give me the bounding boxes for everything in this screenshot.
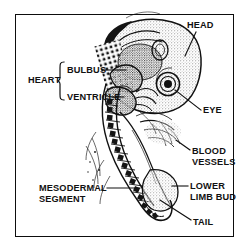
label-mesodermal-segment: MESODERMAL SEGMENT: [39, 183, 107, 204]
label-heart: HEART: [28, 75, 60, 86]
figure-container: HEAD EYE BLOOD VESSELS LOWER LIMB BUD TA…: [0, 0, 250, 252]
label-eye: EYE: [203, 105, 222, 116]
label-head: HEAD: [187, 20, 214, 31]
label-lower-limb-bud: LOWER LIMB BUD: [190, 181, 236, 202]
label-blood-vessels: BLOOD VESSELS: [192, 146, 235, 167]
label-tail: TAIL: [193, 217, 213, 228]
label-ventricle: VENTRICLE: [67, 92, 120, 103]
label-bulbus: BULBUS: [67, 65, 106, 76]
